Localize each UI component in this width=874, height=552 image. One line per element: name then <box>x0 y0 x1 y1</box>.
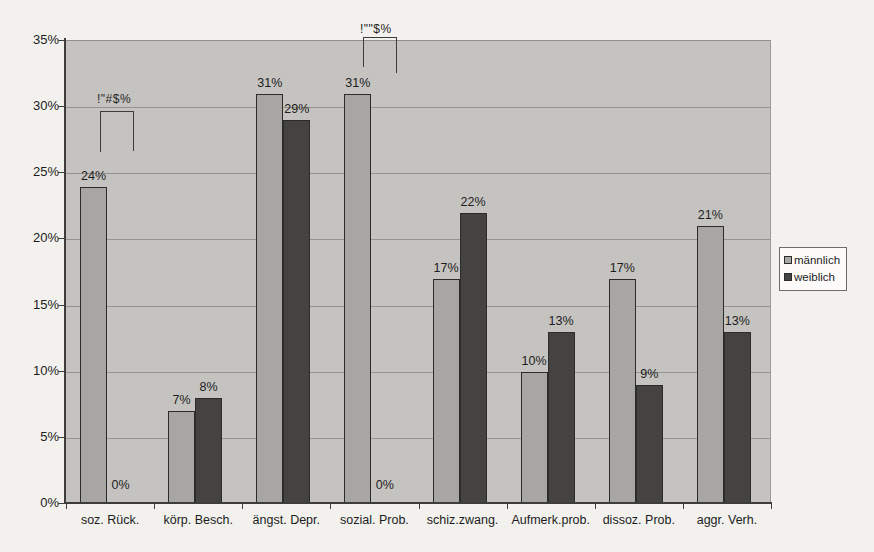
bar-maennlich <box>609 279 636 504</box>
y-tick-mark <box>58 305 64 306</box>
gridline <box>66 107 770 108</box>
y-tick-label: 5% <box>13 429 59 444</box>
category-label: körp. Besch. <box>148 513 248 527</box>
value-label: 29% <box>275 102 319 116</box>
bar-maennlich <box>521 372 548 504</box>
y-tick-mark <box>58 503 64 504</box>
maennlich-swatch-icon <box>784 256 792 264</box>
category-label: schiz.zwang. <box>413 513 513 527</box>
bar-weiblich <box>460 213 487 504</box>
value-label: 22% <box>451 195 495 209</box>
legend-item-maennlich: männlich <box>784 254 846 266</box>
significance-annotation: !"#$% <box>97 92 131 106</box>
significance-annotation: !""$% <box>360 22 392 36</box>
legend-label-maennlich: männlich <box>794 254 840 266</box>
annotation-bracket-line <box>363 37 397 38</box>
legend: männlich weiblich <box>779 247 847 291</box>
legend-item-weiblich: weiblich <box>784 271 846 283</box>
bar-weiblich <box>283 120 310 504</box>
value-label: 9% <box>627 367 671 381</box>
gridline <box>66 306 770 307</box>
value-label: 31% <box>336 76 380 90</box>
y-tick-mark <box>58 371 64 372</box>
value-label: 13% <box>715 314 759 328</box>
y-tick-label: 35% <box>13 32 59 47</box>
annotation-bracket-line <box>133 111 134 151</box>
y-tick-mark <box>58 106 64 107</box>
bar-maennlich <box>433 279 460 504</box>
x-tick-mark <box>154 503 155 509</box>
y-axis-line <box>64 38 66 504</box>
bar-maennlich <box>697 226 724 504</box>
category-label: dissoz. Prob. <box>589 513 689 527</box>
x-tick-mark <box>507 503 508 509</box>
x-tick-mark <box>419 503 420 509</box>
x-tick-mark <box>242 503 243 509</box>
y-tick-label: 15% <box>13 297 59 312</box>
category-label: sozial. Prob. <box>324 513 424 527</box>
y-tick-label: 0% <box>13 495 59 510</box>
value-label: 0% <box>99 478 143 492</box>
annotation-bracket-line <box>363 37 364 67</box>
y-tick-mark <box>58 238 64 239</box>
bar-weiblich <box>195 398 222 504</box>
value-label: 17% <box>600 261 644 275</box>
gridline <box>66 239 770 240</box>
y-tick-label: 10% <box>13 363 59 378</box>
value-label: 0% <box>363 478 407 492</box>
y-tick-mark <box>58 437 64 438</box>
bar-maennlich <box>168 411 195 504</box>
category-label: ängst. Depr. <box>236 513 336 527</box>
annotation-bracket-line <box>396 37 397 73</box>
category-label: soz. Rück. <box>60 513 160 527</box>
category-label: aggr. Verh. <box>677 513 777 527</box>
value-label: 13% <box>539 314 583 328</box>
value-label: 8% <box>187 380 231 394</box>
y-tick-label: 20% <box>13 230 59 245</box>
annotation-bracket-line <box>100 111 134 112</box>
x-tick-mark <box>683 503 684 509</box>
bar-weiblich <box>636 385 663 504</box>
bar-maennlich <box>344 94 371 504</box>
bar-maennlich <box>80 187 107 504</box>
weiblich-swatch-icon <box>784 273 792 281</box>
annotation-bracket-line <box>100 111 101 152</box>
gridline <box>66 173 770 174</box>
bar-maennlich <box>256 94 283 504</box>
y-tick-label: 30% <box>13 98 59 113</box>
x-tick-mark <box>66 503 67 509</box>
bar-weiblich <box>548 332 575 504</box>
y-tick-mark <box>58 172 64 173</box>
x-tick-mark <box>771 503 772 509</box>
y-tick-label: 25% <box>13 164 59 179</box>
plot-area: 24%7%31%31%17%10%17%21%0%8%29%0%22%13%9%… <box>66 40 771 503</box>
bar-weiblich <box>724 332 751 504</box>
category-label: Aufmerk.prob. <box>501 513 601 527</box>
y-tick-mark <box>58 40 64 41</box>
value-label: 21% <box>688 208 732 222</box>
legend-label-weiblich: weiblich <box>794 271 835 283</box>
value-label: 31% <box>248 76 292 90</box>
x-tick-mark <box>330 503 331 509</box>
bar-chart: 24%7%31%31%17%10%17%21%0%8%29%0%22%13%9%… <box>0 0 874 552</box>
value-label: 24% <box>72 169 116 183</box>
x-tick-mark <box>595 503 596 509</box>
